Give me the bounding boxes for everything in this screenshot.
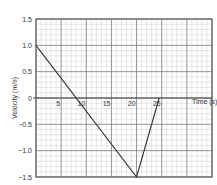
y-tick-labels: 1.51.00.50−0.5−1.0−1.5 bbox=[18, 16, 32, 181]
y-axis-label: Velocity (m/s) bbox=[11, 77, 19, 119]
x-tick-label: 5 bbox=[56, 100, 60, 107]
x-axis-label: Time (s) bbox=[192, 98, 217, 106]
y-tick-label: −0.5 bbox=[18, 121, 32, 128]
y-tick-label: 0.5 bbox=[22, 68, 32, 75]
y-tick-label: 1.0 bbox=[22, 42, 32, 49]
y-tick-label: 1.5 bbox=[22, 16, 32, 23]
x-tick-label: 20 bbox=[128, 100, 136, 107]
x-tick-label: 10 bbox=[77, 100, 85, 107]
y-tick-label: −1.5 bbox=[18, 174, 32, 181]
chart-canvas: 1.51.00.50−0.5−1.0−1.5 510152025 Time (s… bbox=[0, 0, 217, 185]
x-tick-label: 15 bbox=[103, 100, 111, 107]
axes bbox=[33, 19, 212, 177]
series-line-velocity bbox=[36, 45, 159, 177]
y-tick-label: −1.0 bbox=[18, 147, 32, 154]
x-tick-label: 25 bbox=[153, 100, 161, 107]
series bbox=[36, 45, 159, 177]
y-tick-label: 0 bbox=[28, 95, 32, 102]
velocity-time-chart: 1.51.00.50−0.5−1.0−1.5 510152025 Time (s… bbox=[0, 0, 217, 185]
